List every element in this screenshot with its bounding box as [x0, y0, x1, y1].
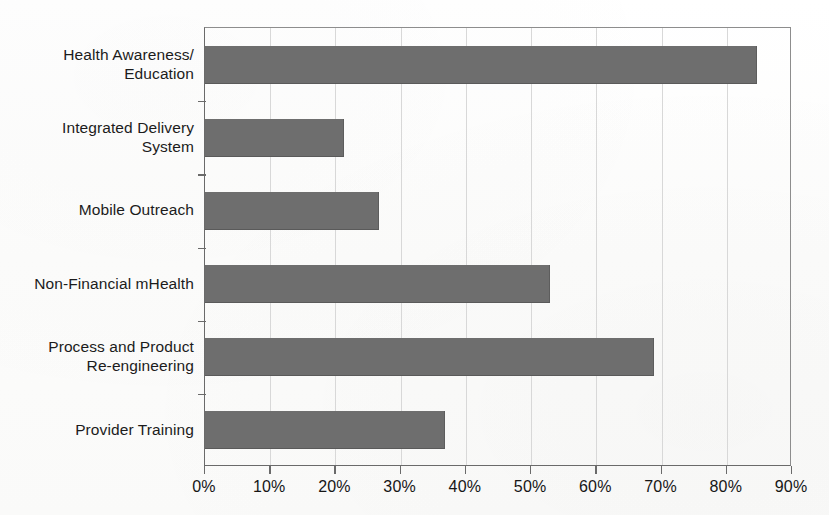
bar-row: [205, 101, 790, 174]
x-axis-label-40: 40%: [449, 477, 482, 497]
y-axis-label-5: Provider Training: [4, 420, 194, 439]
bar-row: [205, 321, 790, 394]
bar-3[interactable]: [205, 265, 550, 303]
x-axis-tick-20: [334, 466, 335, 474]
x-axis-label-80: 80%: [709, 477, 742, 497]
x-axis-label-50: 50%: [514, 477, 547, 497]
horizontal-bar-chart: Health Awareness/ EducationIntegrated De…: [0, 0, 829, 515]
caption-fragment: [18, 505, 438, 515]
x-axis-label-10: 10%: [253, 477, 286, 497]
bar-5[interactable]: [205, 411, 445, 449]
chart-page: Health Awareness/ EducationIntegrated De…: [0, 0, 829, 515]
y-axis-label-4: Process and Product Re-engineering: [4, 337, 194, 375]
x-axis-tick-0: [204, 466, 205, 474]
x-axis-label-20: 20%: [318, 477, 351, 497]
x-axis-tick-10: [269, 466, 270, 474]
bar-4[interactable]: [205, 338, 654, 376]
y-axis-label-3: Non-Financial mHealth: [4, 274, 194, 293]
x-axis-label-70: 70%: [644, 477, 677, 497]
x-axis-label-90: 90%: [775, 477, 808, 497]
x-axis-tick-70: [661, 466, 662, 474]
bar-row: [205, 28, 790, 101]
x-axis-label-30: 30%: [383, 477, 416, 497]
x-axis-tick-40: [465, 466, 466, 474]
bar-row: [205, 174, 790, 247]
y-axis-category-labels: Health Awareness/ EducationIntegrated De…: [0, 27, 194, 466]
x-axis-tick-60: [595, 466, 596, 474]
bar-2[interactable]: [205, 192, 379, 230]
y-axis-label-0: Health Awareness/ Education: [4, 45, 194, 83]
plot-area: [204, 27, 791, 466]
x-axis-tick-90: [791, 466, 792, 474]
bar-row: [205, 248, 790, 321]
bar-row: [205, 394, 790, 467]
x-axis-tick-80: [726, 466, 727, 474]
x-axis-tick-30: [400, 466, 401, 474]
x-axis-tick-50: [530, 466, 531, 474]
x-axis-label-60: 60%: [579, 477, 612, 497]
y-axis-label-2: Mobile Outreach: [4, 200, 194, 219]
x-axis-label-0: 0%: [192, 477, 216, 497]
bar-1[interactable]: [205, 119, 344, 157]
y-axis-label-1: Integrated Delivery System: [4, 118, 194, 156]
bar-0[interactable]: [205, 46, 757, 84]
